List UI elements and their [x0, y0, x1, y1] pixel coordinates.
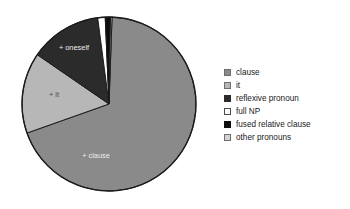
- legend-swatch-icon: [224, 82, 231, 89]
- legend-item-full-NP[interactable]: full NP: [224, 105, 348, 118]
- legend-item-clause[interactable]: clause: [224, 66, 348, 79]
- legend-item-label: clause: [236, 68, 260, 78]
- legend-item-fused-relative-clause[interactable]: fused relative clause: [224, 118, 348, 131]
- legend-item-label: it: [236, 81, 240, 91]
- legend-swatch-icon: [224, 95, 231, 102]
- slice-label: + oneself: [59, 43, 90, 52]
- legend-item-reflexive-pronoun[interactable]: reflexive pronoun: [224, 92, 348, 105]
- legend-item-label: fused relative clause: [236, 120, 311, 130]
- legend-item-label: full NP: [236, 107, 260, 117]
- legend-item-it[interactable]: it: [224, 79, 348, 92]
- pie-chart-figure: + oneself+ it+ clause clauseitreflexive …: [0, 0, 350, 209]
- slice-label: + clause: [82, 151, 110, 160]
- legend-swatch-icon: [224, 69, 231, 76]
- slice-label: + it: [49, 90, 59, 99]
- legend-swatch-icon: [224, 134, 231, 141]
- chart-legend: clauseitreflexive pronounfull NPfused re…: [224, 66, 348, 144]
- pie-plot-area: + oneself+ it+ clause: [0, 0, 210, 209]
- pie-svg: + oneself+ it+ clause: [0, 0, 210, 209]
- legend-item-label: reflexive pronoun: [236, 94, 299, 104]
- legend-item-other-pronouns[interactable]: other pronouns: [224, 131, 348, 144]
- legend-swatch-icon: [224, 121, 231, 128]
- legend-item-label: other pronouns: [236, 133, 291, 143]
- legend-swatch-icon: [224, 108, 231, 115]
